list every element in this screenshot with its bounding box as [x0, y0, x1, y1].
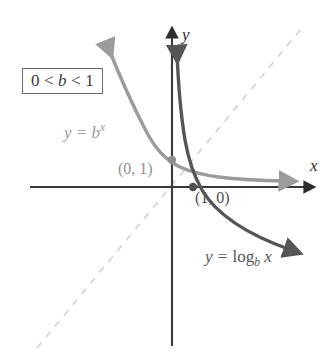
- point-label-0-1: (0, 1): [118, 161, 153, 177]
- exponential-label-exponent: x: [100, 121, 105, 134]
- y-axis-label: y: [182, 26, 190, 43]
- condition-left-operator: <: [44, 71, 54, 90]
- curve-logarithmic: [177, 52, 291, 250]
- point-marker-0-1: [168, 156, 176, 164]
- condition-box: 0<b<1: [22, 68, 103, 94]
- exponential-label-base: b: [92, 123, 101, 142]
- condition-right-operator: <: [71, 71, 81, 90]
- exponential-curve-label: y = bx: [64, 122, 105, 141]
- x-axis-label: x: [310, 157, 318, 174]
- figure-container: 0<b<1 y = bx y = logb x (0, 1) (1, 0) y …: [0, 0, 332, 356]
- condition-left-number: 0: [31, 71, 40, 90]
- logarithmic-label-subscript: b: [254, 256, 260, 269]
- logarithmic-label-function: log: [233, 247, 255, 266]
- logarithmic-curve-label: y = logb x: [205, 248, 272, 269]
- point-label-1-0: (1, 0): [195, 190, 230, 206]
- condition-right-number: 1: [85, 71, 94, 90]
- logarithmic-label-prefix: y =: [205, 247, 228, 266]
- exponential-label-prefix: y =: [64, 123, 87, 142]
- condition-variable: b: [58, 71, 67, 90]
- graph-canvas: [0, 0, 332, 356]
- logarithmic-label-argument: x: [264, 247, 272, 266]
